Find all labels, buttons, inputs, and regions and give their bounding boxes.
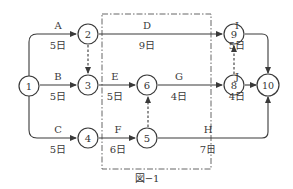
activity-E-name: E — [111, 71, 118, 82]
activity-D-name: D — [143, 20, 151, 31]
activity-A-duration: 5日 — [50, 40, 66, 51]
figure-caption: 図−1 — [135, 173, 160, 184]
activity-I-duration: 5日 — [229, 40, 245, 51]
activity-C-name: C — [54, 124, 62, 135]
activity-H-duration: 7日 — [200, 144, 216, 155]
network-diagram: 1 2 3 4 5 6 8 9 10 A 5日 B 5日 C 5日 D 9日 E… — [0, 0, 293, 189]
edge-C — [29, 96, 76, 138]
node-2: 2 — [78, 24, 98, 44]
activity-H-name: H — [204, 124, 213, 135]
activity-C-duration: 5日 — [50, 144, 66, 155]
node-5: 5 — [137, 128, 157, 148]
svg-text:1: 1 — [26, 81, 32, 92]
activity-A-name: A — [53, 20, 62, 31]
node-4: 4 — [78, 128, 98, 148]
activity-J-duration: 4日 — [229, 91, 245, 102]
activity-D-duration: 9日 — [139, 40, 155, 51]
svg-text:5: 5 — [144, 133, 150, 144]
activity-B-name: B — [54, 71, 61, 82]
activity-J-name: J — [234, 71, 239, 82]
activity-E-duration: 5日 — [107, 91, 123, 102]
edge-H — [158, 97, 268, 138]
node-6: 6 — [137, 75, 157, 95]
edge-I — [245, 34, 268, 73]
svg-text:6: 6 — [144, 80, 150, 91]
activity-F-duration: 6日 — [110, 144, 126, 155]
node-10: 10 — [257, 74, 279, 96]
svg-text:3: 3 — [85, 80, 91, 91]
node-1: 1 — [19, 76, 39, 96]
activity-F-name: F — [115, 124, 122, 135]
svg-text:10: 10 — [262, 80, 274, 91]
svg-text:4: 4 — [85, 133, 91, 144]
svg-text:2: 2 — [85, 29, 91, 40]
activity-G-name: G — [175, 71, 183, 82]
activity-I-name: I — [235, 20, 239, 31]
activity-B-duration: 5日 — [50, 91, 66, 102]
activity-G-duration: 4日 — [171, 91, 187, 102]
node-3: 3 — [78, 75, 98, 95]
